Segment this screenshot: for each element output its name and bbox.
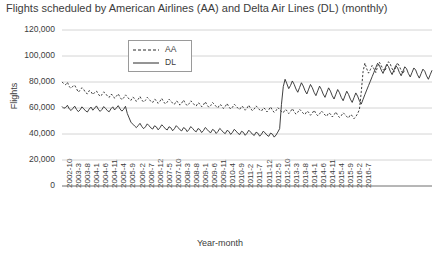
chart-container: Flights scheduled by American Airlines (… bbox=[0, 0, 440, 256]
series-line-aa bbox=[62, 62, 405, 119]
legend-label-dl: DL bbox=[165, 56, 176, 69]
series-line-dl bbox=[62, 63, 432, 137]
legend-label-aa: AA bbox=[165, 43, 176, 56]
chart-legend: AA DL bbox=[128, 40, 192, 72]
plot-area bbox=[0, 0, 440, 256]
legend-swatch-aa-icon bbox=[132, 43, 160, 56]
legend-swatch-dl-icon bbox=[132, 56, 160, 69]
